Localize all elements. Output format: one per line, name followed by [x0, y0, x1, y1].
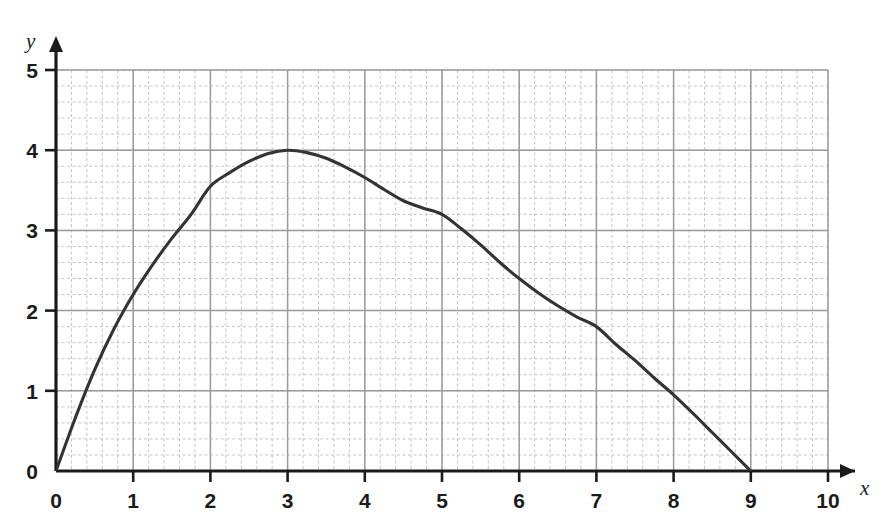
x-axis-tick-label: 3	[282, 489, 294, 512]
x-axis-tick-label: 10	[816, 489, 839, 512]
x-axis-tick-label: 4	[359, 489, 371, 512]
x-axis-tick-label: 7	[591, 489, 603, 512]
x-axis-tick-label: 2	[205, 489, 217, 512]
coordinate-graph: 012345678910 012345 x y	[0, 0, 887, 520]
y-axis-label: y	[24, 29, 36, 53]
y-axis-tick-label: 1	[26, 380, 38, 403]
y-axis-tick-label: 0	[26, 460, 38, 483]
y-axis-tick-label: 5	[26, 59, 38, 82]
x-axis-label: x	[859, 476, 870, 500]
x-axis-tick-label: 6	[513, 489, 525, 512]
x-axis-tick-label: 0	[50, 489, 62, 512]
x-axis-tick-label: 8	[668, 489, 680, 512]
y-axis-tick-label: 3	[26, 219, 38, 242]
x-axis-tick-label: 9	[745, 489, 757, 512]
x-axis-tick-label: 1	[127, 489, 139, 512]
graph-container: 012345678910 012345 x y	[0, 0, 887, 520]
y-axis-tick-label: 2	[26, 300, 38, 323]
x-axis-tick-label: 5	[436, 489, 448, 512]
y-axis-tick-label: 4	[26, 139, 38, 162]
